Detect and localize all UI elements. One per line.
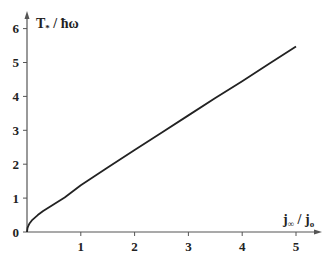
x-tick-label: 3 [185,239,192,254]
y-axis-label: T* / ħω [36,16,79,33]
y-tick-label: 4 [13,89,20,104]
y-axis-arrow-icon [25,11,30,19]
y-axis-label-rest: / ħω [50,16,79,31]
axes [25,11,323,235]
y-tick-label: 3 [13,123,20,138]
y-tick-label: 1 [13,191,20,206]
y-tick-label: 6 [13,21,20,36]
x-tick-label: 1 [78,239,85,254]
x-tick-label: 2 [131,239,138,254]
x-tick-label: 5 [293,239,300,254]
x-axis-label-sep: / j [294,212,310,227]
x-axis-label: j∞ / jo [282,212,315,229]
series-line [27,47,296,232]
y-tick-label: 2 [13,157,20,172]
y-tick-label: 0 [13,225,20,240]
series [27,47,296,232]
x-axis-arrow-icon [314,230,322,235]
chart: 12345 0123456 T* / ħω j∞ / jo [0,0,333,263]
x-ticks: 12345 [78,232,300,254]
y-tick-label: 5 [13,55,20,70]
x-axis-label-sub2: o [310,219,315,229]
y-ticks: 0123456 [13,21,28,239]
x-tick-label: 4 [239,239,246,254]
